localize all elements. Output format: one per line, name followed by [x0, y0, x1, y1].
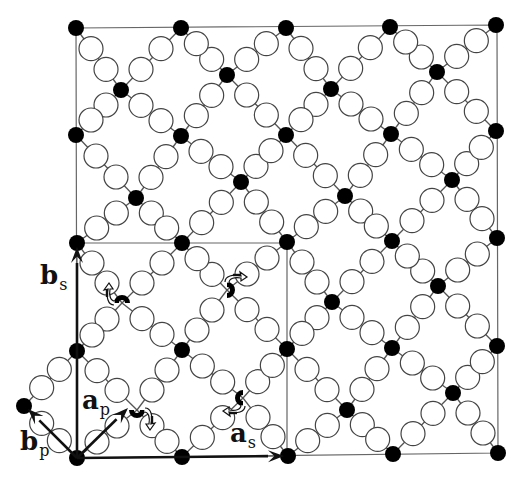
open-atom	[399, 137, 423, 161]
open-atom	[79, 37, 103, 61]
open-atom	[314, 199, 338, 223]
open-atom	[184, 32, 208, 56]
bond	[76, 28, 121, 90]
bond	[181, 75, 227, 136]
open-atom	[79, 108, 103, 132]
center-atom	[323, 81, 339, 97]
bond	[121, 28, 181, 90]
open-atom	[84, 144, 108, 168]
open-atom	[254, 103, 278, 127]
bond	[227, 290, 287, 349]
half-atom	[129, 410, 145, 418]
open-atom	[211, 370, 235, 394]
bond	[227, 75, 286, 135]
open-atom	[235, 47, 259, 71]
open-atom	[394, 101, 418, 125]
open-atom	[395, 315, 419, 339]
bond	[392, 180, 452, 241]
open-atom	[470, 350, 494, 374]
center-atom	[324, 294, 340, 310]
open-atom	[290, 250, 314, 274]
open-atom	[348, 163, 372, 187]
open-atom	[185, 247, 209, 271]
corner-atom	[488, 123, 504, 139]
bond	[332, 241, 392, 302]
open-atom	[200, 298, 224, 322]
open-atom	[350, 377, 374, 401]
bond	[182, 182, 241, 243]
open-atom	[80, 323, 104, 347]
open-atom	[445, 80, 469, 104]
open-atom	[464, 29, 488, 53]
vector-a_s	[77, 456, 268, 458]
open-atom	[304, 57, 328, 81]
open-atom	[313, 164, 337, 188]
bond	[181, 136, 241, 182]
open-atom	[261, 425, 285, 449]
open-atom	[104, 165, 128, 189]
center-atom	[233, 174, 249, 190]
open-atom	[359, 107, 383, 131]
bond	[331, 27, 390, 89]
bond	[438, 286, 497, 346]
corner-atom	[278, 127, 294, 143]
open-atom	[411, 295, 435, 319]
open-atom	[315, 413, 339, 437]
open-atom	[420, 188, 444, 212]
bond	[391, 72, 437, 134]
open-atom	[305, 270, 329, 294]
label-a-p: ap	[82, 387, 110, 418]
bond	[392, 348, 453, 393]
bond	[391, 134, 452, 180]
bond	[287, 349, 347, 410]
corner-atom	[489, 230, 505, 246]
bond	[122, 303, 182, 350]
corner-atom	[384, 233, 400, 249]
bond	[345, 134, 391, 196]
open-atom	[150, 322, 174, 346]
open-atom	[235, 83, 259, 107]
bond	[182, 350, 243, 398]
corner-atom	[68, 20, 84, 36]
open-atom	[30, 376, 54, 400]
open-atom	[455, 187, 479, 211]
label-a-s: as	[230, 420, 256, 451]
corner-atom	[174, 235, 190, 251]
bond	[121, 90, 181, 136]
bond	[241, 182, 287, 242]
bond	[437, 72, 496, 131]
open-atom	[149, 109, 173, 133]
center-atom	[128, 190, 144, 206]
open-atom	[340, 270, 364, 294]
bond	[76, 135, 136, 198]
open-atom	[155, 429, 179, 453]
bond	[347, 348, 392, 410]
corner-atom	[490, 445, 506, 461]
center-atom	[113, 82, 129, 98]
open-atom	[364, 143, 388, 167]
open-atom	[190, 211, 214, 235]
open-atom	[190, 354, 214, 378]
corner-atom	[384, 340, 400, 356]
open-atom	[296, 429, 320, 453]
open-atom	[185, 318, 209, 342]
open-atom	[360, 321, 384, 345]
open-atom	[104, 201, 128, 225]
open-atom	[139, 165, 163, 189]
open-atom	[150, 251, 174, 275]
open-atom	[395, 244, 419, 268]
open-atom	[130, 271, 154, 295]
open-atom	[85, 430, 109, 454]
open-atom	[140, 378, 164, 402]
open-atom	[446, 258, 470, 282]
open-atom	[244, 190, 268, 214]
open-atom	[209, 190, 233, 214]
open-atom	[260, 210, 284, 234]
corner-atom	[279, 234, 295, 250]
open-atom	[340, 305, 364, 329]
open-atom	[421, 401, 445, 425]
bond	[286, 28, 331, 89]
open-atom	[289, 36, 313, 60]
open-atom	[259, 139, 283, 163]
bond	[227, 242, 287, 290]
